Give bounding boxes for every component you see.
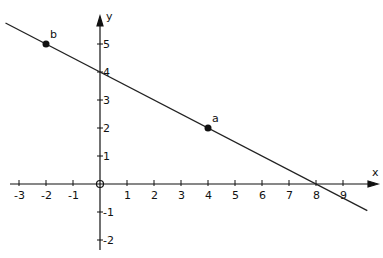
y-tick-label: -2 [103, 234, 114, 247]
x-tick-label: 4 [205, 189, 212, 202]
x-arrow-icon [368, 181, 378, 187]
plot-line [6, 23, 368, 211]
y-arrow-icon [97, 16, 103, 26]
x-tick-label: 2 [151, 189, 158, 202]
y-tick-label: 1 [103, 150, 110, 163]
axes [10, 16, 378, 250]
x-tick-label: 1 [124, 189, 131, 202]
x-tick-label: -2 [41, 189, 52, 202]
ticks: -3-2-1123456789-2-112345xy [14, 10, 379, 247]
point-label: b [50, 28, 57, 41]
x-tick-label: -3 [14, 189, 25, 202]
x-axis-label: x [372, 166, 379, 179]
point-a [205, 125, 212, 132]
coordinate-plot: -3-2-1123456789-2-112345xy ba [0, 0, 383, 258]
x-tick-label: 8 [313, 189, 320, 202]
point-label: a [212, 112, 219, 125]
y-tick-label: -1 [103, 206, 114, 219]
x-tick-label: 3 [178, 189, 185, 202]
x-tick-label: -1 [68, 189, 79, 202]
x-tick-label: 7 [286, 189, 293, 202]
x-tick-label: 6 [259, 189, 266, 202]
y-axis-label: y [106, 10, 113, 23]
y-tick-label: 5 [103, 38, 110, 51]
points: ba [43, 28, 219, 132]
x-tick-label: 5 [232, 189, 239, 202]
y-tick-label: 2 [103, 122, 110, 135]
y-tick-label: 3 [103, 94, 110, 107]
point-b [43, 41, 50, 48]
